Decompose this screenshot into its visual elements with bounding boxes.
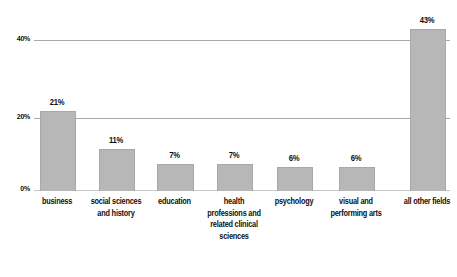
y-axis-tick-20-label: 20% xyxy=(17,113,30,121)
plot-area: 40% 20% 0% 21%business11%social sciences… xyxy=(0,0,457,277)
x-axis-category-label: education xyxy=(145,196,204,208)
bar-value-label: 43% xyxy=(401,16,454,25)
bar xyxy=(410,29,446,191)
bar-value-label: 21% xyxy=(31,98,84,107)
y-axis-tick-40: 40% xyxy=(6,35,30,45)
bar-value-label: 7% xyxy=(148,151,202,160)
bar-value-label: 11% xyxy=(90,136,143,145)
y-axis-tick-0-label: 0% xyxy=(20,185,30,193)
bar xyxy=(217,164,253,191)
y-axis-tick-20: 20% xyxy=(6,113,30,123)
x-axis-category-label: psychology xyxy=(265,196,323,208)
bar xyxy=(277,167,313,191)
gridline-20-percent xyxy=(34,118,450,119)
x-axis-category-label: health professions and related clinical … xyxy=(205,196,263,242)
gridline-40-percent xyxy=(34,40,450,41)
x-axis-category-label: business xyxy=(28,196,86,208)
x-axis-category-label: all other fields xyxy=(398,196,456,208)
x-axis-category-label: visual and performing arts xyxy=(327,196,385,219)
y-axis-tick-40-label: 40% xyxy=(17,35,30,43)
bar-chart: 40% 20% 0% 21%business11%social sciences… xyxy=(0,0,457,277)
bar-value-label: 7% xyxy=(208,151,261,160)
x-axis-category-label: social sciences and history xyxy=(87,196,145,219)
bar-value-label: 6% xyxy=(268,154,321,163)
bar xyxy=(157,164,194,191)
bar xyxy=(339,167,375,191)
bar-value-label: 6% xyxy=(330,154,383,163)
bar xyxy=(99,149,135,191)
y-axis-tick-0: 0% xyxy=(6,185,30,195)
bar xyxy=(40,111,76,191)
